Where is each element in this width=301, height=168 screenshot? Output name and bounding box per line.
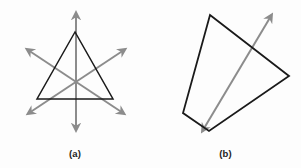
- panel-b-symmetry-axes: [203, 16, 271, 130]
- figure-panel-b: (b): [150, 0, 301, 168]
- panel-a-symmetry-axes: [28, 14, 124, 129]
- panel-a-drawing: [0, 0, 150, 168]
- panel-a-caption: (a): [0, 148, 150, 159]
- diagonal-line-through-figure: [203, 16, 271, 130]
- panel-b-caption: (b): [150, 148, 301, 159]
- figure-panel-a: (a): [0, 0, 150, 168]
- geometry-figure: (a) (b): [0, 0, 301, 168]
- panel-b-drawing: [150, 0, 301, 168]
